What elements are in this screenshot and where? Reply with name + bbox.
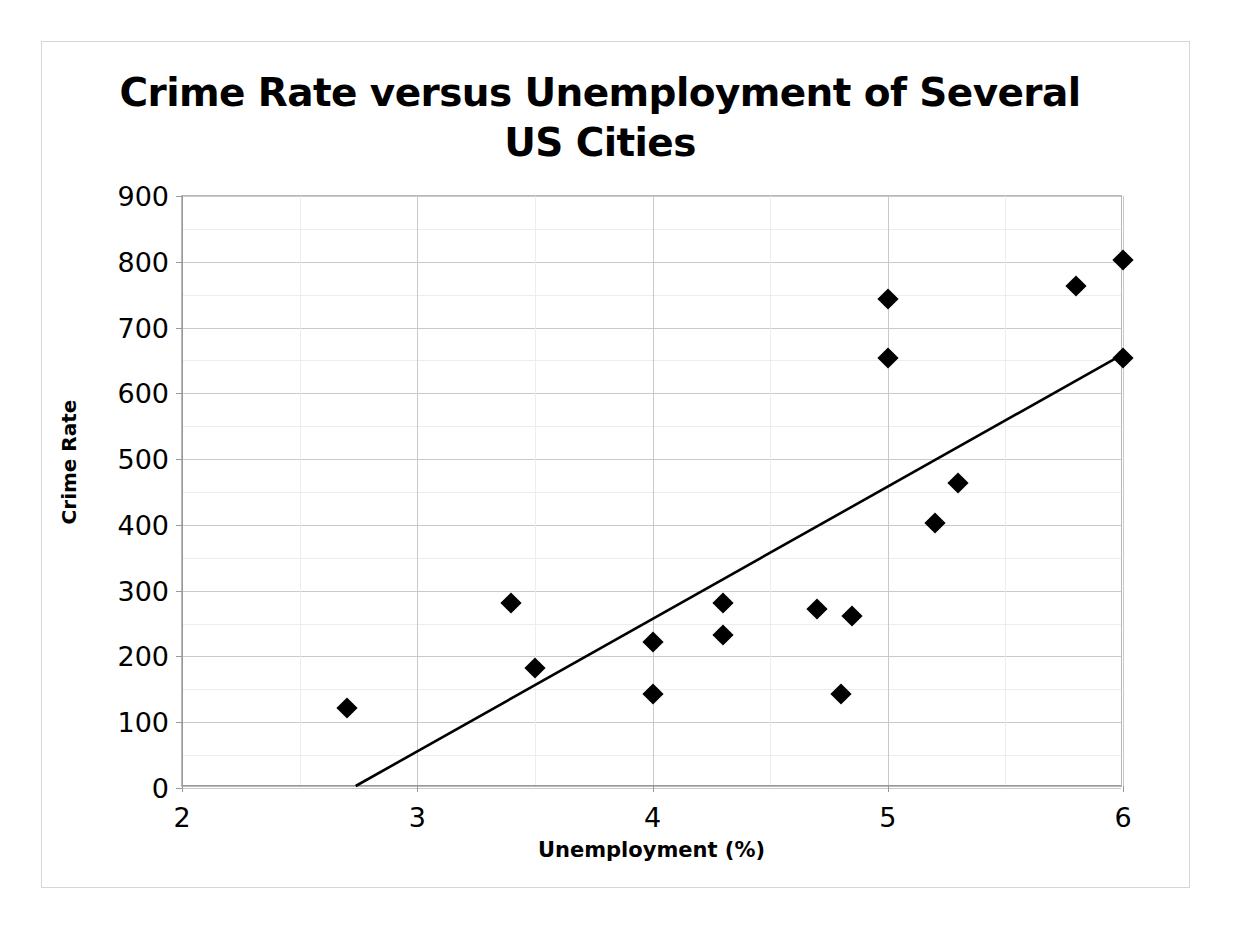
data-point-marker [807, 598, 828, 619]
x-tick-mark [417, 786, 418, 792]
data-point-marker [712, 625, 733, 646]
chart-title: Crime Rate versus Unemployment of Severa… [100, 68, 1100, 168]
x-tick-label: 2 [173, 802, 190, 833]
gridline-vertical-minor [770, 196, 771, 786]
gridline-horizontal-minor [182, 624, 1121, 625]
data-point-marker [924, 512, 945, 533]
gridline-vertical-major [1123, 196, 1124, 786]
y-tick-label: 600 [117, 378, 169, 409]
y-tick-mark [176, 459, 182, 460]
y-tick-label: 800 [117, 246, 169, 277]
x-tick-label: 5 [879, 802, 896, 833]
data-point-marker [642, 631, 663, 652]
x-tick-mark [1123, 786, 1124, 792]
data-point-marker [642, 683, 663, 704]
gridline-horizontal-minor [182, 295, 1121, 296]
gridline-horizontal-minor [182, 229, 1121, 230]
gridline-horizontal-minor [182, 360, 1121, 361]
gridline-horizontal-minor [182, 755, 1121, 756]
x-tick-label: 6 [1114, 802, 1131, 833]
gridline-horizontal-minor [182, 492, 1121, 493]
y-tick-mark [176, 591, 182, 592]
x-axis-line [182, 785, 1121, 786]
gridline-horizontal-major [182, 262, 1121, 263]
y-tick-label: 300 [117, 575, 169, 606]
gridline-horizontal-major [182, 196, 1121, 197]
data-point-marker [1065, 276, 1086, 297]
gridline-vertical-minor [535, 196, 536, 786]
y-tick-label: 200 [117, 641, 169, 672]
data-point-marker [336, 697, 357, 718]
x-tick-label: 3 [409, 802, 426, 833]
data-point-marker [501, 592, 522, 613]
gridline-vertical-major [888, 196, 889, 786]
data-point-marker [948, 473, 969, 494]
gridline-horizontal-major [182, 656, 1121, 657]
x-axis-title: Unemployment (%) [181, 838, 1122, 862]
y-tick-mark [176, 328, 182, 329]
y-tick-label: 400 [117, 509, 169, 540]
plot-area: 010020030040050060070080090023456 [181, 195, 1122, 787]
gridline-horizontal-major [182, 722, 1121, 723]
y-tick-label: 500 [117, 444, 169, 475]
data-point-marker [877, 348, 898, 369]
x-tick-mark [888, 786, 889, 792]
y-tick-label: 100 [117, 707, 169, 738]
gridline-horizontal-minor [182, 426, 1121, 427]
y-tick-label: 0 [152, 773, 169, 804]
y-tick-mark [176, 525, 182, 526]
y-tick-mark [176, 196, 182, 197]
y-tick-mark [176, 656, 182, 657]
x-tick-label: 4 [644, 802, 661, 833]
gridline-horizontal-minor [182, 558, 1121, 559]
data-point-marker [712, 592, 733, 613]
gridline-horizontal-major [182, 788, 1121, 789]
y-tick-label: 700 [117, 312, 169, 343]
data-point-marker [524, 658, 545, 679]
gridline-horizontal-major [182, 591, 1121, 592]
y-tick-mark [176, 722, 182, 723]
gridline-vertical-minor [300, 196, 301, 786]
data-point-marker [830, 683, 851, 704]
y-tick-label: 900 [117, 181, 169, 212]
x-tick-mark [653, 786, 654, 792]
y-tick-mark [176, 262, 182, 263]
gridline-horizontal-major [182, 328, 1121, 329]
gridline-vertical-minor [1005, 196, 1006, 786]
y-axis-title: Crime Rate [57, 382, 81, 542]
gridline-horizontal-major [182, 393, 1121, 394]
x-tick-mark [182, 786, 183, 792]
gridline-vertical-major [417, 196, 418, 786]
y-tick-mark [176, 393, 182, 394]
data-point-marker [877, 289, 898, 310]
gridline-horizontal-major [182, 459, 1121, 460]
y-axis-line [182, 196, 183, 786]
chart-page: Crime Rate versus Unemployment of Severa… [0, 0, 1238, 931]
gridline-horizontal-major [182, 525, 1121, 526]
